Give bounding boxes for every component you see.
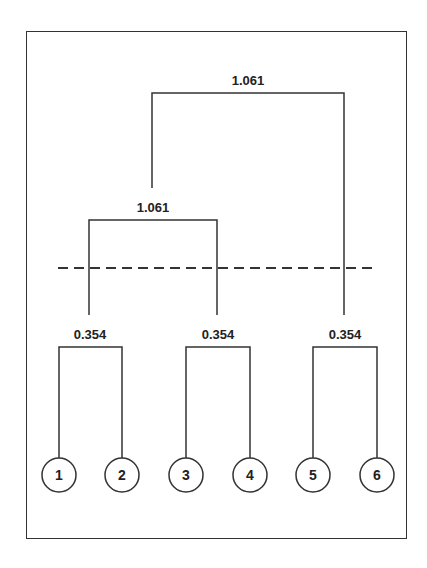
leaf-label-4: 4 — [246, 467, 254, 483]
leaf-label-5: 5 — [309, 467, 317, 483]
top-merge-bracket — [152, 93, 344, 315]
merge-label-left: 1.061 — [137, 200, 170, 215]
leaf-label-6: 6 — [373, 467, 381, 483]
merge-label-34: 0.354 — [202, 327, 235, 342]
dendrogram: 1.061 1.061 0.354 0.354 0.354 1 2 3 4 5 … — [0, 0, 427, 568]
merge-label-12: 0.354 — [74, 327, 107, 342]
leaf-label-1: 1 — [55, 467, 63, 483]
pair-34-bracket — [186, 347, 250, 458]
pair-12-bracket — [59, 347, 122, 458]
pair-56-bracket — [313, 347, 377, 458]
merge-label-top: 1.061 — [232, 73, 265, 88]
leaf-label-3: 3 — [182, 467, 190, 483]
leaf-label-2: 2 — [118, 467, 126, 483]
merge-label-56: 0.354 — [329, 327, 362, 342]
